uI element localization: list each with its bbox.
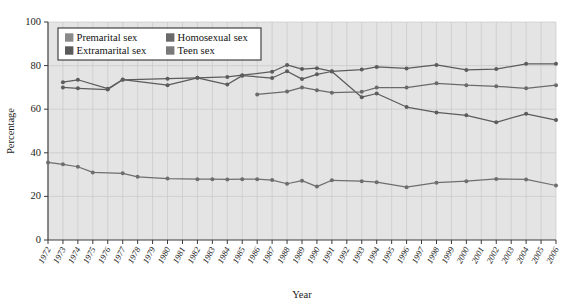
data-point-extramarital-sex: [76, 86, 80, 90]
data-point-premarital-sex: [554, 184, 558, 188]
data-point-premarital-sex: [300, 179, 304, 183]
data-point-premarital-sex: [375, 180, 379, 184]
x-tick-label: 1973: [51, 245, 68, 265]
x-tick-label: 1984: [215, 245, 232, 265]
data-point-teen-sex: [375, 86, 379, 90]
data-point-premarital-sex: [240, 177, 244, 181]
data-point-premarital-sex: [285, 182, 289, 186]
x-tick-label: 1998: [424, 245, 441, 265]
data-point-homosexual-sex: [405, 105, 409, 109]
legend-swatch-homosexual-sex: [166, 33, 174, 41]
x-tick-label: 2005: [529, 245, 546, 265]
x-tick-label: 1997: [409, 245, 426, 265]
y-tick-label: 100: [25, 16, 41, 27]
data-point-homosexual-sex: [285, 69, 289, 73]
x-tick-label: 2004: [514, 245, 531, 265]
data-point-premarital-sex: [524, 177, 528, 181]
x-axis-title: Year: [292, 289, 312, 300]
data-point-extramarital-sex: [315, 66, 319, 70]
data-point-homosexual-sex: [375, 92, 379, 96]
data-point-premarital-sex: [434, 181, 438, 185]
x-tick-label: 1974: [66, 245, 83, 265]
chart-container: 0204060801001972197319741975197619771978…: [0, 0, 570, 306]
y-tick-label: 20: [31, 190, 42, 201]
x-tick-label: 1982: [185, 245, 202, 265]
x-tick-label: 1980: [155, 245, 172, 265]
legend-label-premarital-sex: Premarital sex: [77, 32, 139, 43]
x-tick-label: 1990: [305, 245, 322, 265]
x-tick-label: 1986: [245, 245, 262, 265]
data-point-extramarital-sex: [61, 85, 65, 89]
data-point-homosexual-sex: [76, 78, 80, 82]
x-tick-label: 1995: [380, 245, 397, 265]
data-point-teen-sex: [524, 86, 528, 90]
data-point-extramarital-sex: [494, 67, 498, 71]
x-tick-label: 1991: [320, 245, 337, 265]
data-point-premarital-sex: [494, 177, 498, 181]
data-point-premarital-sex: [121, 171, 125, 175]
x-tick-label: 1972: [36, 245, 53, 265]
legend-swatch-teen-sex: [166, 46, 174, 54]
x-tick-label: 1979: [140, 245, 157, 265]
data-point-premarital-sex: [195, 177, 199, 181]
data-point-premarital-sex: [330, 178, 334, 182]
x-tick-label: 2000: [454, 245, 471, 265]
data-point-premarital-sex: [255, 177, 259, 181]
x-tick-label: 2002: [484, 245, 501, 265]
x-tick-label: 1985: [230, 245, 247, 265]
data-point-extramarital-sex: [360, 68, 364, 72]
data-point-premarital-sex: [91, 170, 95, 174]
data-point-homosexual-sex: [330, 69, 334, 73]
y-tick-label: 0: [36, 234, 41, 245]
data-point-premarital-sex: [360, 179, 364, 183]
data-point-homosexual-sex: [434, 110, 438, 114]
data-point-teen-sex: [315, 88, 319, 92]
data-point-premarital-sex: [46, 160, 50, 164]
x-tick-label: 2003: [499, 245, 516, 265]
x-tick-label: 1993: [350, 245, 367, 265]
x-tick-label: 1978: [126, 245, 143, 265]
data-point-homosexual-sex: [61, 80, 65, 84]
data-point-homosexual-sex: [240, 74, 244, 78]
legend-label-extramarital-sex: Extramarital sex: [77, 45, 147, 56]
data-point-extramarital-sex: [434, 63, 438, 67]
data-point-homosexual-sex: [270, 76, 274, 80]
data-point-homosexual-sex: [121, 78, 125, 82]
data-point-premarital-sex: [61, 162, 65, 166]
x-tick-label: 1981: [170, 245, 187, 265]
x-tick-label: 1999: [439, 245, 456, 265]
y-tick-label: 60: [31, 103, 42, 114]
data-point-homosexual-sex: [554, 118, 558, 122]
data-point-homosexual-sex: [315, 72, 319, 76]
x-tick-label: 1976: [96, 245, 113, 265]
data-point-homosexual-sex: [360, 95, 364, 99]
data-point-homosexual-sex: [494, 120, 498, 124]
data-point-homosexual-sex: [225, 83, 229, 87]
data-point-premarital-sex: [270, 178, 274, 182]
data-point-homosexual-sex: [166, 83, 170, 87]
y-tick-label: 40: [31, 147, 42, 158]
x-tick-label: 1994: [365, 245, 382, 265]
data-point-homosexual-sex: [106, 87, 110, 91]
line-chart: 0204060801001972197319741975197619771978…: [0, 0, 570, 306]
data-point-premarital-sex: [210, 177, 214, 181]
x-tick-label: 1983: [200, 245, 217, 265]
data-point-extramarital-sex: [300, 67, 304, 71]
data-point-premarital-sex: [225, 177, 229, 181]
data-point-teen-sex: [360, 90, 364, 94]
legend-swatch-premarital-sex: [65, 33, 73, 41]
data-point-extramarital-sex: [464, 68, 468, 72]
data-point-teen-sex: [494, 84, 498, 88]
data-point-homosexual-sex: [524, 112, 528, 116]
data-point-premarital-sex: [315, 185, 319, 189]
x-tick-label: 1989: [290, 245, 307, 265]
data-point-extramarital-sex: [166, 77, 170, 81]
data-point-teen-sex: [434, 81, 438, 85]
data-point-teen-sex: [285, 90, 289, 94]
x-tick-label: 2001: [469, 245, 486, 265]
legend-swatch-extramarital-sex: [65, 46, 73, 54]
x-tick-label: 1987: [260, 245, 277, 265]
x-tick-label: 1992: [335, 245, 352, 265]
data-point-homosexual-sex: [195, 76, 199, 80]
data-point-teen-sex: [405, 86, 409, 90]
